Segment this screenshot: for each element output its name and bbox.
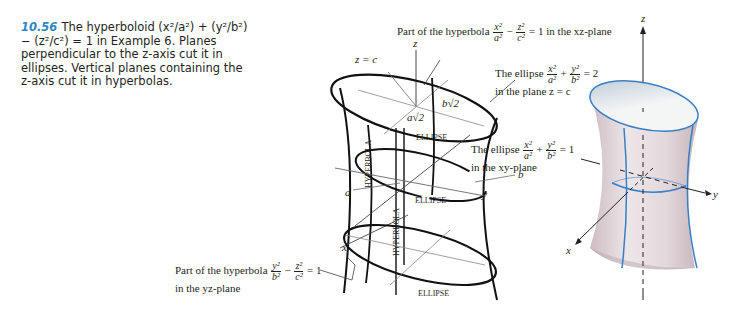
ellipse-label-mid: ELLIPSE bbox=[415, 196, 446, 205]
xz-hyperbola-annotation: Part of the hyperbola x²a² − z²c² = 1 in… bbox=[397, 22, 612, 43]
z-equals-c-label: z = c bbox=[354, 53, 377, 65]
hyperboloid-line-drawing: z z = c b√2 a√2 ELLIPSE ELLIPSE ELLIPSE … bbox=[0, 0, 733, 315]
hyperbola-label-bottom: HYPERBOLA bbox=[392, 208, 401, 256]
a-label: a bbox=[345, 186, 351, 198]
y-axis-label-right: y bbox=[712, 188, 718, 200]
b-sqrt2-label: b√2 bbox=[442, 97, 460, 109]
x-axis-label-right: x bbox=[565, 244, 571, 256]
y-axis-label-left: y bbox=[481, 188, 487, 200]
ellipse-mid-annotation: The ellipse x²a² + y²b² = 1 in the xy-pl… bbox=[471, 140, 574, 173]
yz-hyperbola-annotation: Part of the hyperbola y²b² − z²c² = 1 in… bbox=[175, 261, 322, 294]
a-sqrt2-label: a√2 bbox=[407, 111, 425, 123]
z-axis-label-right: z bbox=[640, 12, 646, 24]
ellipse-top-annotation: The ellipse x²a² + y²b² = 2 in the plane… bbox=[495, 64, 598, 97]
ellipse-label-top: ELLIPSE bbox=[416, 133, 447, 142]
x-axis-label-left: x bbox=[341, 241, 347, 253]
ellipse-label-bottom: ELLIPSE bbox=[418, 289, 449, 298]
hyperbola-label-left: HYPERBOLA bbox=[364, 140, 373, 188]
